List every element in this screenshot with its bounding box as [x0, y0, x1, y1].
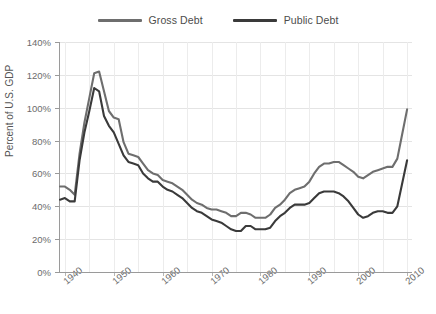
series-line-gross-debt [60, 72, 407, 218]
series-lines [60, 42, 412, 272]
chart-container: Gross Debt Public Debt Percent of U.S. G… [0, 0, 436, 314]
y-axis-title: Percent of U.S. GDP [4, 65, 15, 157]
x-axis-line [59, 272, 412, 273]
legend-swatch-gross-debt [98, 19, 142, 22]
y-tick-label: 40% [32, 201, 51, 212]
legend-item-public-debt[interactable]: Public Debt [233, 14, 339, 26]
y-tick-label: 20% [32, 234, 51, 245]
legend-item-gross-debt[interactable]: Gross Debt [98, 14, 203, 26]
y-tick-label: 60% [32, 168, 51, 179]
series-line-public-debt [60, 88, 407, 231]
y-tick-label: 100% [27, 102, 51, 113]
legend-label-public-debt: Public Debt [284, 14, 339, 26]
y-tick-label: 140% [27, 37, 51, 48]
chart-legend: Gross Debt Public Debt [0, 14, 436, 26]
plot-area: 0%20%40%60%80%100%120%140% 1940195019601… [60, 42, 412, 272]
legend-swatch-public-debt [233, 19, 277, 22]
y-tick-label: 0% [37, 267, 51, 278]
y-tick-label: 120% [27, 69, 51, 80]
legend-label-gross-debt: Gross Debt [149, 14, 203, 26]
y-tick-label: 80% [32, 135, 51, 146]
